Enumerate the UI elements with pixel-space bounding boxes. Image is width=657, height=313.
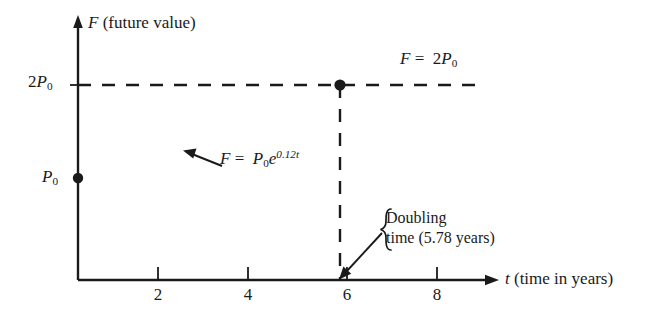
x-tick-label-8: 8 bbox=[427, 286, 447, 303]
asymptote-base: P bbox=[441, 49, 451, 68]
asymptote-operator: = bbox=[415, 49, 425, 68]
doubling-time-callout: Doubling time (5.78 years) bbox=[386, 208, 495, 249]
equation-curve: F = P0e0.12t bbox=[220, 150, 299, 167]
x-tick-label-6: 6 bbox=[337, 286, 357, 303]
y-axis bbox=[73, 15, 83, 280]
curve-lhs: F bbox=[220, 149, 230, 168]
exponential-growth-figure: F (future value) t (time in years) 2P0 P… bbox=[0, 0, 657, 313]
curve-operator: = bbox=[235, 149, 245, 168]
equation-asymptote: F = 2P0 bbox=[400, 50, 457, 67]
curve-exponent: 0.12t bbox=[276, 148, 299, 160]
doubling-callout-line2: time (5.78 years) bbox=[386, 228, 495, 248]
y-axis-name: (future value) bbox=[103, 13, 196, 32]
x-axis bbox=[78, 275, 499, 285]
x-tick-label-2: 2 bbox=[148, 286, 168, 303]
x-tick-label-4: 4 bbox=[238, 286, 258, 303]
y-axis-title: F (future value) bbox=[88, 14, 196, 31]
y-tick-p0-base: P bbox=[42, 167, 52, 186]
y-tick-p0-sub: 0 bbox=[52, 175, 58, 187]
y-tick-2p0-prefix: 2 bbox=[28, 72, 37, 91]
asymptote-sub: 0 bbox=[452, 57, 458, 69]
doubling-time-leader-arrow bbox=[339, 233, 382, 280]
y-tick-2p0-sub: 0 bbox=[47, 80, 53, 92]
y-axis-symbol: F bbox=[88, 13, 98, 32]
point-initial-principal bbox=[73, 173, 83, 183]
y-tick-label-2p0: 2P0 bbox=[28, 73, 53, 90]
curve-base: P bbox=[253, 149, 263, 168]
y-tick-label-p0: P0 bbox=[42, 168, 58, 185]
figure-canvas bbox=[0, 0, 657, 313]
x-axis-title: t (time in years) bbox=[505, 270, 613, 287]
curve-equation-leader-arrow bbox=[183, 149, 222, 167]
doubling-callout-line1: Doubling bbox=[386, 208, 495, 228]
x-axis-name: (time in years) bbox=[514, 269, 613, 288]
asymptote-coefficient: 2 bbox=[433, 49, 442, 68]
point-doubling bbox=[334, 79, 345, 90]
y-tick-2p0-base: P bbox=[37, 72, 47, 91]
asymptote-lhs: F bbox=[400, 49, 410, 68]
